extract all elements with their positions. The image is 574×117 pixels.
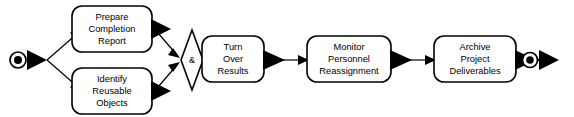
activity-turn-over-results-line-3: Results: [217, 66, 248, 76]
end-node-arrowhead-icon: [539, 50, 559, 70]
activity-identify-reusable-objects[interactable]: Identify Reusable Objects: [72, 68, 152, 114]
flow-prepare-to-gateway: [151, 19, 180, 58]
activity-identify-reusable-objects-line-1: Identify: [97, 74, 127, 84]
activity-diagram-canvas: Prepare Completion Report Identify Reusa…: [0, 0, 574, 117]
flow-monitor-to-archive-source-arrowhead-icon: [390, 50, 412, 70]
flow-monitor-to-archive: [390, 50, 436, 70]
activity-archive-project-deliverables[interactable]: Archive Project Deliverables: [434, 36, 516, 82]
flow-identify-to-gateway: [151, 62, 180, 101]
flow-turnover-to-monitor: [263, 50, 309, 70]
end-node[interactable]: [523, 50, 560, 70]
activity-archive-project-deliverables-line-3: Deliverables: [449, 66, 501, 76]
activity-turn-over-results[interactable]: Turn Over Results: [202, 36, 264, 82]
activity-prepare-completion-report[interactable]: Prepare Completion Report: [72, 6, 152, 52]
flow-prepare-to-gateway-arrowhead-icon: [168, 48, 180, 58]
activity-monitor-personnel-reassignment-line-1: Monitor: [333, 42, 364, 52]
activity-turn-over-results-line-1: Turn: [224, 42, 243, 52]
activity-identify-reusable-objects-line-2: Reusable: [92, 86, 131, 96]
flow-identify-to-gateway-arrowhead-icon: [168, 62, 180, 72]
and-join-gateway[interactable]: &: [181, 30, 203, 90]
start-node-inner-dot: [14, 56, 22, 64]
activity-archive-project-deliverables-line-1: Archive: [459, 42, 490, 52]
end-node-inner-dot: [526, 56, 534, 64]
activity-prepare-completion-report-line-3: Report: [98, 36, 126, 46]
start-node-arrowhead-icon: [27, 50, 47, 70]
activity-archive-project-deliverables-line-2: Project: [461, 54, 490, 64]
activity-prepare-completion-report-line-1: Prepare: [95, 12, 128, 22]
activity-turn-over-results-line-2: Over: [223, 54, 243, 64]
activity-monitor-personnel-reassignment-line-2: Personnel: [328, 54, 370, 64]
diagram-svg: Prepare Completion Report Identify Reusa…: [0, 0, 574, 117]
start-node[interactable]: [10, 50, 47, 70]
flow-turnover-to-monitor-source-arrowhead-icon: [263, 50, 285, 70]
activity-monitor-personnel-reassignment[interactable]: Monitor Personnel Reassignment: [307, 36, 391, 82]
activity-monitor-personnel-reassignment-line-3: Reassignment: [319, 66, 379, 76]
activity-prepare-completion-report-line-2: Completion: [88, 24, 135, 34]
activity-identify-reusable-objects-line-3: Objects: [96, 98, 128, 108]
and-join-gateway-symbol: &: [189, 55, 195, 65]
